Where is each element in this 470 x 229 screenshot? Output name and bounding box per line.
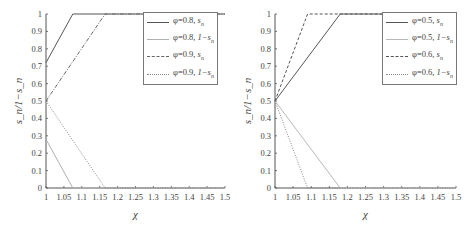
legend-item: φ=0.8, sn bbox=[147, 14, 214, 31]
x-tick-label: 1.35 bbox=[164, 192, 179, 202]
y-tick-label: 1 bbox=[38, 9, 42, 19]
chart-left-legend: φ=0.8, snφ=0.8, 1−snφ=0.9, snφ=0.9, 1−sn bbox=[143, 12, 218, 85]
legend-swatch bbox=[386, 74, 408, 75]
y-tick-label: 1 bbox=[267, 9, 271, 19]
legend-item: φ=0.9, 1−sn bbox=[147, 66, 214, 83]
x-tick-label: 1.45 bbox=[430, 192, 445, 202]
y-tick-label: 0.3 bbox=[31, 131, 42, 141]
x-axis-title: χ bbox=[362, 208, 369, 220]
legend-swatch bbox=[147, 39, 169, 40]
y-tick-label: 0.9 bbox=[260, 26, 271, 36]
y-tick-label: 0.7 bbox=[260, 61, 271, 71]
y-tick-label: 0.4 bbox=[31, 113, 42, 123]
x-tick-label: 1.2 bbox=[112, 192, 123, 202]
y-tick-label: 0.9 bbox=[31, 26, 42, 36]
legend-label: φ=0.6, 1−sn bbox=[412, 66, 453, 83]
series-line bbox=[275, 101, 456, 188]
y-tick-label: 0.5 bbox=[260, 96, 271, 106]
x-tick-label: 1.15 bbox=[92, 192, 107, 202]
x-tick-label: 1.45 bbox=[200, 192, 215, 202]
x-tick-label: 1.5 bbox=[220, 192, 231, 202]
y-tick-label: 0.1 bbox=[260, 166, 271, 176]
legend-label: φ=0.9, 1−sn bbox=[173, 66, 214, 83]
x-tick-label: 1.4 bbox=[414, 192, 425, 202]
x-axis-title: χ bbox=[132, 208, 139, 220]
legend-item: φ=0.8, 1−sn bbox=[147, 31, 214, 48]
y-tick-label: 0.8 bbox=[31, 44, 42, 54]
x-tick-label: 1.2 bbox=[342, 192, 353, 202]
x-tick-label: 1.25 bbox=[128, 192, 143, 202]
legend-item: φ=0.5, sn bbox=[386, 14, 453, 31]
series-line bbox=[275, 101, 456, 188]
y-tick-label: 0.3 bbox=[260, 131, 271, 141]
y-tick-label: 0.2 bbox=[260, 148, 271, 158]
chart-right-legend: φ=0.5, snφ=0.5, 1−snφ=0.6, snφ=0.6, 1−sn bbox=[382, 12, 457, 85]
x-tick-label: 1.3 bbox=[378, 192, 389, 202]
legend-item: φ=0.5, 1−sn bbox=[386, 31, 453, 48]
legend-label: φ=0.6, sn bbox=[412, 48, 443, 65]
y-tick-label: 0.7 bbox=[31, 61, 42, 71]
legend-swatch bbox=[147, 74, 169, 75]
y-axis-title: s_n/1−s_n bbox=[241, 77, 253, 124]
x-tick-label: 1.3 bbox=[148, 192, 159, 202]
legend-label: φ=0.5, sn bbox=[412, 14, 443, 31]
legend-swatch bbox=[147, 22, 169, 23]
y-tick-label: 0 bbox=[267, 183, 271, 193]
x-tick-label: 1.1 bbox=[76, 192, 87, 202]
legend-item: φ=0.9, sn bbox=[147, 48, 214, 65]
y-tick-label: 0.4 bbox=[260, 113, 271, 123]
x-tick-label: 1.25 bbox=[358, 192, 373, 202]
legend-item: φ=0.6, 1−sn bbox=[386, 66, 453, 83]
x-tick-label: 1.1 bbox=[306, 192, 317, 202]
x-tick-label: 1.35 bbox=[394, 192, 409, 202]
x-tick-label: 1.05 bbox=[286, 192, 301, 202]
legend-label: φ=0.8, sn bbox=[173, 14, 204, 31]
y-tick-label: 0 bbox=[38, 183, 42, 193]
legend-label: φ=0.9, sn bbox=[173, 48, 204, 65]
x-tick-label: 1.5 bbox=[451, 192, 462, 202]
x-tick-label: 1 bbox=[273, 192, 277, 202]
legend-item: φ=0.6, sn bbox=[386, 48, 453, 65]
y-tick-label: 0.5 bbox=[31, 96, 42, 106]
legend-label: φ=0.5, 1−sn bbox=[412, 31, 453, 48]
y-tick-label: 0.6 bbox=[260, 79, 271, 89]
legend-swatch bbox=[147, 56, 169, 57]
y-tick-label: 0.1 bbox=[31, 166, 42, 176]
x-tick-label: 1 bbox=[44, 192, 48, 202]
legend-swatch bbox=[386, 56, 408, 57]
y-axis-title: s_n/1−s_n bbox=[12, 77, 24, 124]
y-tick-label: 0.8 bbox=[260, 44, 271, 54]
series-line bbox=[46, 139, 225, 188]
chart-right: 11.051.11.151.21.251.31.351.41.451.500.1… bbox=[235, 0, 470, 229]
legend-swatch bbox=[386, 39, 408, 40]
y-tick-label: 0.6 bbox=[31, 79, 42, 89]
x-tick-label: 1.4 bbox=[184, 192, 195, 202]
chart-left: 11.051.11.151.21.251.31.351.41.451.500.1… bbox=[0, 0, 235, 229]
legend-swatch bbox=[386, 22, 408, 23]
series-line bbox=[46, 101, 225, 188]
x-tick-label: 1.05 bbox=[56, 192, 71, 202]
y-tick-label: 0.2 bbox=[31, 148, 42, 158]
legend-label: φ=0.8, 1−sn bbox=[173, 31, 214, 48]
x-tick-label: 1.15 bbox=[322, 192, 337, 202]
